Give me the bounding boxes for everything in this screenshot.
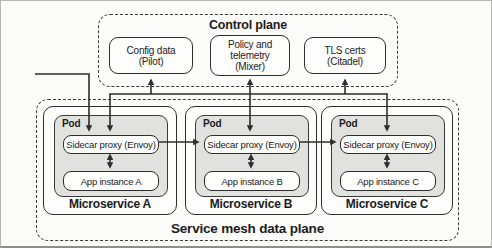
microservice-b-label: Microservice B	[186, 197, 316, 211]
policy-telemetry-mixer-label-line1: Policy and	[228, 39, 272, 50]
microservice-c-label: Microservice C	[322, 197, 452, 211]
pod-a-label: Pod	[62, 118, 80, 129]
tls-certs-citadel-box: TLS certs (Citadel)	[304, 37, 386, 74]
config-data-pilot-label-line2: (Pilot)	[139, 56, 164, 67]
pod-c-label: Pod	[339, 118, 357, 129]
config-data-pilot-label-line1: Config data	[127, 45, 176, 56]
service-mesh-architecture-diagram: Control plane Config data (Pilot) Policy…	[0, 0, 492, 248]
sidecar-proxy-b-box: Sidecar proxy (Envoy)	[204, 135, 300, 154]
control-plane-title: Control plane	[99, 18, 397, 32]
pod-b-box: Pod Sidecar proxy (Envoy) App instance B	[195, 115, 309, 197]
sidecar-proxy-c-box: Sidecar proxy (Envoy)	[340, 135, 436, 154]
tls-certs-citadel-label-line1: TLS certs	[325, 45, 366, 56]
app-instance-b-box: App instance B	[204, 171, 300, 191]
tls-certs-citadel-label-line2: (Citadel)	[327, 56, 363, 67]
data-plane-title: Service mesh data plane	[37, 221, 458, 236]
microservice-a-label: Microservice A	[44, 197, 176, 211]
pod-b-label: Pod	[203, 118, 221, 129]
config-data-pilot-box: Config data (Pilot)	[109, 37, 193, 74]
pod-c-box: Pod Sidecar proxy (Envoy) App instance C	[331, 115, 445, 197]
app-instance-a-box: App instance A	[63, 171, 159, 191]
policy-telemetry-mixer-label-line2: telemetry	[230, 50, 269, 61]
app-instance-c-box: App instance C	[340, 171, 436, 191]
microservice-b-box: Pod Sidecar proxy (Envoy) App instance B…	[185, 106, 317, 215]
policy-telemetry-mixer-label-line3: (Mixer)	[235, 61, 265, 72]
sidecar-proxy-a-box: Sidecar proxy (Envoy)	[63, 135, 159, 154]
pod-a-box: Pod Sidecar proxy (Envoy) App instance A	[54, 115, 168, 197]
policy-telemetry-mixer-box: Policy and telemetry (Mixer)	[210, 35, 290, 76]
microservice-a-box: Pod Sidecar proxy (Envoy) App instance A…	[43, 106, 177, 215]
microservice-c-box: Pod Sidecar proxy (Envoy) App instance C…	[321, 106, 453, 215]
